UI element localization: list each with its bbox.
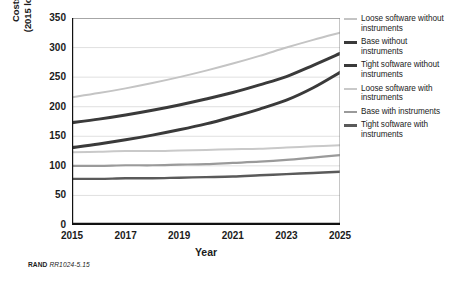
legend-item-label: Loose software without instruments: [361, 14, 450, 33]
legend-swatch-icon: [344, 64, 357, 67]
x-axis-tick-label: 2025: [320, 231, 360, 241]
chart-legend: Loose software without instrumentsBase w…: [344, 14, 450, 144]
y-axis-tick-label: 0: [36, 220, 66, 230]
legend-swatch-icon: [344, 88, 357, 90]
legend-item: Loose software without instruments: [344, 14, 450, 33]
x-axis-tick-label: 2017: [106, 231, 146, 241]
x-axis-tick-label: 2021: [213, 231, 253, 241]
plot-frame: [72, 18, 340, 225]
legend-item: Tight software with instruments: [344, 120, 450, 139]
x-axis-tick-label: 2023: [266, 231, 306, 241]
legend-item-label: Tight software without instruments: [361, 60, 450, 79]
y-axis-tick-label: 50: [36, 190, 66, 200]
series-line: [72, 33, 340, 97]
series-line: [72, 172, 340, 179]
series-line: [72, 145, 340, 152]
chart-canvas: [72, 18, 340, 225]
legend-swatch-icon: [344, 18, 357, 20]
x-axis-tick-label: 2019: [159, 231, 199, 241]
legend-swatch-icon: [344, 124, 357, 126]
y-axis-tick-label: 100: [36, 161, 66, 171]
y-axis-tick-label: 300: [36, 43, 66, 53]
y-axis-title-line-2: (2015 losses to cyberattack = 100%): [22, 0, 34, 32]
series-line: [72, 155, 340, 166]
legend-item-label: Base with instruments: [361, 107, 440, 117]
x-axis-title: Year: [72, 246, 340, 258]
series-lines: [72, 33, 340, 179]
chart-figure: Costs over time, by percentage (2015 los…: [0, 0, 452, 285]
legend-swatch-icon: [344, 111, 357, 113]
legend-item: Base with instruments: [344, 107, 450, 117]
legend-item-label: Loose software with instruments: [361, 84, 450, 103]
legend-item-label: Base without instruments: [361, 37, 450, 56]
legend-item: Base without instruments: [344, 37, 450, 56]
y-axis-title-line-1: Costs over time, by percentage: [10, 0, 22, 32]
legend-item: Tight software without instruments: [344, 60, 450, 79]
y-axis-tick-label: 200: [36, 102, 66, 112]
x-axis-tick-label: 2015: [52, 231, 92, 241]
legend-item-label: Tight software with instruments: [361, 120, 450, 139]
footer-figure-id: RR1024-5.15: [49, 261, 89, 268]
figure-source-note: RAND RR1024-5.15: [28, 261, 90, 268]
y-axis-tick-label: 350: [36, 13, 66, 23]
series-line: [72, 53, 340, 122]
y-axis-tick-label: 250: [36, 72, 66, 82]
footer-org: RAND: [28, 261, 47, 268]
legend-swatch-icon: [344, 41, 357, 44]
legend-item: Loose software with instruments: [344, 84, 450, 103]
y-axis-tick-label: 150: [36, 131, 66, 141]
plot-area: [72, 18, 340, 225]
